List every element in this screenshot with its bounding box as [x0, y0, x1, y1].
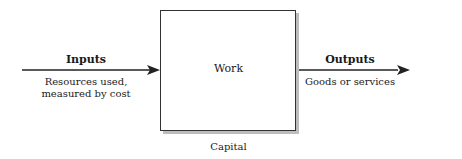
work-label: Work	[160, 63, 297, 75]
inputs-title: Inputs	[30, 53, 142, 66]
outputs-description: Goods or services	[295, 76, 405, 88]
inputs-description-line2: measured by cost	[30, 88, 142, 100]
output-arrow	[295, 65, 410, 75]
inputs-description-line1: Resources used,	[30, 76, 142, 88]
outputs-title: Outputs	[295, 53, 405, 66]
capital-label: Capital	[160, 141, 297, 153]
input-arrow	[22, 65, 160, 75]
